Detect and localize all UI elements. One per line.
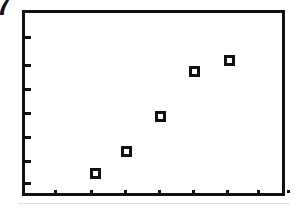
- data-point-marker: [90, 168, 101, 179]
- y-axis-tick: [25, 88, 31, 91]
- data-point-marker: [121, 146, 132, 157]
- data-point-marker: [155, 111, 166, 122]
- x-axis-tick: [192, 190, 195, 193]
- data-point-marker: [224, 55, 235, 66]
- x-axis-tick: [90, 190, 93, 193]
- x-axis-tick: [158, 190, 161, 193]
- x-axis-tick: [124, 190, 127, 193]
- x-axis-tick: [226, 190, 229, 193]
- x-axis-tick: [287, 190, 290, 193]
- plot-area: [25, 13, 282, 193]
- scatter-plot-figure: 7: [0, 0, 299, 209]
- x-axis-tick: [257, 190, 260, 193]
- figure-number-label: 7: [0, 0, 10, 20]
- y-axis-tick: [25, 160, 31, 163]
- data-point-marker: [189, 66, 200, 77]
- y-axis-tick: [25, 136, 31, 139]
- y-axis-tick: [25, 64, 31, 67]
- plot-frame: [22, 10, 285, 196]
- y-axis-tick: [25, 112, 31, 115]
- y-axis-tick: [25, 36, 31, 39]
- scan-artifact-line: [18, 203, 290, 204]
- x-axis-tick: [54, 190, 57, 193]
- y-axis-tick: [25, 182, 31, 185]
